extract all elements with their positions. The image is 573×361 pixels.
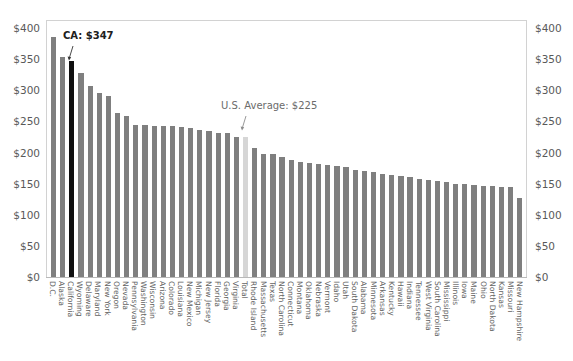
bar-slot xyxy=(168,28,177,277)
bar-slot xyxy=(76,28,85,277)
y-axis-left: $0$50$100$150$200$250$300$350$400 xyxy=(0,28,46,277)
bar-minnesota xyxy=(371,172,376,277)
x-axis-label: Minnesota xyxy=(369,281,377,320)
x-axis-label: Georgia xyxy=(223,281,231,311)
x-axis-label: Vermont xyxy=(323,281,331,313)
bar-slot xyxy=(415,28,424,277)
x-axis-label-slot: Vermont xyxy=(323,279,332,359)
x-axis-label-slot: North Dakota xyxy=(488,279,497,359)
bar-wyoming xyxy=(78,73,83,277)
y-axis-tick: $400 xyxy=(13,23,40,34)
bar-slot xyxy=(86,28,95,277)
x-axis-label: West Virginia xyxy=(424,281,432,331)
x-axis-label-slot: Arkansas xyxy=(378,279,387,359)
y-axis-tick: $150 xyxy=(13,178,40,189)
bar-slot xyxy=(159,28,168,277)
bar-slot xyxy=(488,28,497,277)
bar-nebraska xyxy=(316,164,321,277)
bar-rhode-island xyxy=(252,148,257,277)
bar-north-carolina xyxy=(279,157,284,277)
bar-slot xyxy=(360,28,369,277)
bar-slot xyxy=(451,28,460,277)
plot-area xyxy=(46,20,527,277)
bar-slot xyxy=(241,28,250,277)
x-axis-label: South Dakota xyxy=(351,281,359,332)
bar-slot xyxy=(186,28,195,277)
x-axis-label: Iowa xyxy=(461,281,469,299)
x-axis-label: Wisconsin xyxy=(149,281,157,319)
annotation-us-average-arrow-icon xyxy=(239,115,251,133)
x-axis-label: New York xyxy=(103,281,111,316)
x-axis-label: Oregon xyxy=(112,281,120,309)
x-axis-label: Louisiana xyxy=(177,281,185,317)
bar-south-dakota xyxy=(353,170,358,277)
bar-slot xyxy=(323,28,332,277)
x-axis-label: Maine xyxy=(470,281,478,304)
bar-west-virginia xyxy=(426,180,431,277)
x-axis-label-slot: Alaska xyxy=(57,279,66,359)
bar-north-dakota xyxy=(490,186,495,277)
x-axis-label: Massachusetts xyxy=(259,281,267,337)
x-axis-label-slot: Rhode Island xyxy=(250,279,259,359)
x-axis-label: Michigan xyxy=(195,281,203,315)
x-axis-label: New Mexico xyxy=(186,281,194,327)
x-axis-label: Connecticut xyxy=(287,281,295,326)
y-axis-tick: $300 xyxy=(13,85,40,96)
bar-montana xyxy=(298,162,303,277)
y-axis-tick: $350 xyxy=(535,54,562,65)
x-axis-label: New Hampshire xyxy=(516,281,524,341)
x-axis-label: Utah xyxy=(342,281,350,299)
x-axis-label: Florida xyxy=(213,281,221,307)
x-axis-label: Washington xyxy=(140,281,148,326)
x-axis-label-slot: New York xyxy=(103,279,112,359)
y-axis-tick: $50 xyxy=(535,241,555,252)
bar-kansas xyxy=(499,187,504,277)
x-axis-label: Alaska xyxy=(57,281,65,306)
x-axis-label-slot: Oklahoma xyxy=(305,279,314,359)
bar-slot xyxy=(396,28,405,277)
bar-slot xyxy=(204,28,213,277)
y-axis-tick: $50 xyxy=(20,241,40,252)
bar-wisconsin xyxy=(152,126,157,277)
bar-slot xyxy=(460,28,469,277)
x-axis-label-slot: Wisconsin xyxy=(149,279,158,359)
x-axis-label-slot: Massachusetts xyxy=(259,279,268,359)
x-axis-label-slot: Wyoming xyxy=(76,279,85,359)
bar-florida xyxy=(216,133,221,277)
x-axis-label-slot: Virginia xyxy=(231,279,240,359)
x-axis-label: Total xyxy=(241,281,249,299)
bar-slot xyxy=(278,28,287,277)
bar-chart: $0$50$100$150$200$250$300$350$400 $0$50$… xyxy=(0,0,573,361)
x-axis-label-slot: Mississippi xyxy=(442,279,451,359)
x-axis-label: Wyoming xyxy=(76,281,84,317)
bar-texas xyxy=(270,154,275,277)
bar-colorado xyxy=(170,126,175,277)
bar-connecticut xyxy=(289,160,294,277)
bar-slot xyxy=(387,28,396,277)
bar-massachusetts xyxy=(261,154,266,277)
bar-alaska xyxy=(60,57,65,277)
bar-slot xyxy=(515,28,524,277)
bar-arizona xyxy=(161,126,166,277)
bar-oklahoma xyxy=(307,163,312,277)
bar-slot xyxy=(369,28,378,277)
x-axis-label: North Dakota xyxy=(489,281,497,332)
bar-slot xyxy=(424,28,433,277)
bar-vermont xyxy=(325,165,330,277)
bar-slot xyxy=(113,28,122,277)
y-axis-tick: $200 xyxy=(535,147,562,158)
y-axis-tick: $0 xyxy=(535,272,548,283)
bar-georgia xyxy=(225,133,230,277)
x-axis-label: Kansas xyxy=(498,281,506,308)
x-axis-label-slot: Michigan xyxy=(195,279,204,359)
x-axis-label-slot: Alabama xyxy=(360,279,369,359)
bar-slot xyxy=(150,28,159,277)
bar-slot xyxy=(195,28,204,277)
x-axis-label: Oklahoma xyxy=(305,281,313,320)
x-axis-label-slot: Minnesota xyxy=(369,279,378,359)
x-axis-label: Pennsylvania xyxy=(131,281,139,331)
bar-new-york xyxy=(106,96,111,277)
bar-iowa xyxy=(462,184,467,277)
bar-slot xyxy=(332,28,341,277)
x-axis-label: Mississippi xyxy=(443,281,451,321)
